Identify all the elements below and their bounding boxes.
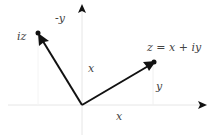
label-y: y <box>155 80 163 93</box>
label-x-bottom: x <box>116 110 123 123</box>
label-x-vertical: x <box>88 62 95 75</box>
label-iz: iz <box>17 30 27 43</box>
vector-iz <box>41 38 82 105</box>
label-neg-y: -y <box>55 12 66 25</box>
complex-plane-diagram: iz -y x z = x + iy y x <box>0 0 220 137</box>
vector-iz-tip <box>36 31 41 36</box>
label-z: z = x + iy <box>146 41 202 54</box>
vector-iz-arrow-icon <box>38 33 49 46</box>
vector-z-tip <box>152 60 157 65</box>
